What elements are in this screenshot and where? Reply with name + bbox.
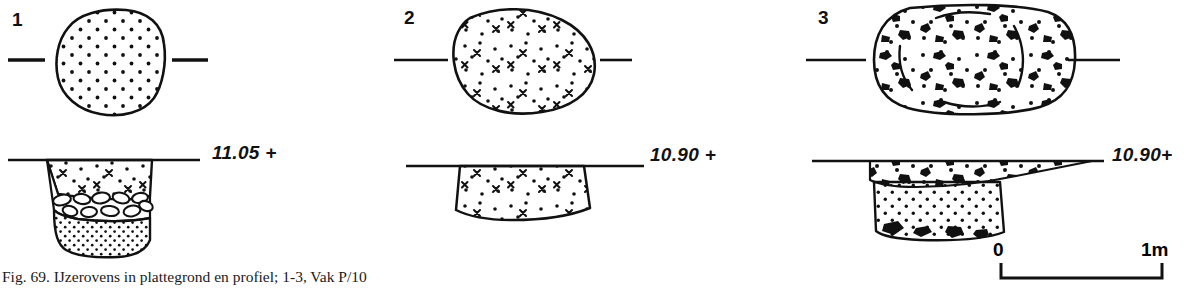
item-2-elevation-label: 10.90 + — [650, 145, 716, 164]
item-3-group — [806, 5, 1120, 240]
scale-bar-start-label: 0 — [993, 240, 1004, 259]
scale-bar-graphic — [1001, 263, 1162, 278]
item-2-number: 2 — [404, 8, 415, 27]
figure-drawing-canvas — [0, 0, 1199, 288]
scale-bar-bracket — [1001, 263, 1162, 278]
item-1-plan-outline — [56, 10, 164, 116]
figure-root: 1 2 3 11.05 + 10.90 + 10.90+ 0 1m Fig. 6… — [0, 0, 1199, 288]
item-3-plan-outline — [874, 5, 1075, 114]
item-2-profile-body — [456, 166, 590, 220]
item-3-number: 3 — [818, 8, 829, 27]
item-3-elevation-label: 10.90+ — [1112, 145, 1172, 164]
item-2-plan-outline — [453, 9, 594, 113]
item-1-number: 1 — [12, 10, 23, 29]
item-2-group — [394, 9, 644, 220]
item-1-group — [8, 10, 208, 258]
scale-bar-end-label: 1m — [1141, 240, 1168, 259]
item-1-elevation-label: 11.05 + — [212, 143, 277, 162]
figure-caption: Fig. 69. IJzerovens in plattegrond en pr… — [2, 268, 367, 286]
